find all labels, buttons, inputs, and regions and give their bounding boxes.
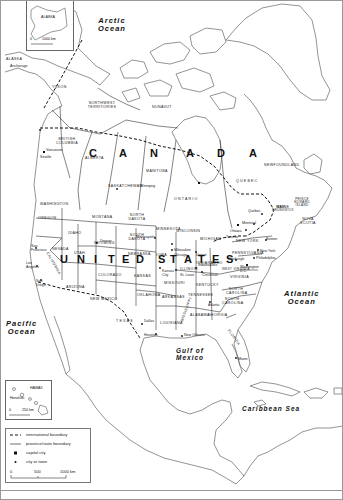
city-vancouver: Vancouver bbox=[46, 149, 63, 153]
city-chicago: Chicago bbox=[174, 254, 187, 258]
city-indianapolis: Indianapolis bbox=[198, 264, 217, 268]
hawaii-inset: HAWAII Honolulu 0 250 km bbox=[5, 380, 52, 420]
city-washington-dc: Washington D.C. bbox=[240, 266, 262, 273]
state-arkansas: ARKANSAS bbox=[162, 296, 185, 300]
city-seattle: Seattle bbox=[40, 156, 51, 160]
state-michigan: MICHIGAN bbox=[200, 238, 221, 242]
state-alabama: ALABAMA bbox=[190, 314, 210, 318]
state-arizona: ARIZONA bbox=[66, 286, 85, 290]
state-louisiana: LOUISIANA bbox=[160, 322, 183, 326]
alaska-inset-label: ALASKA bbox=[41, 16, 55, 20]
city-cincinnati: Cincinnati bbox=[202, 274, 218, 278]
map-legend: international boundary province/state bo… bbox=[5, 428, 91, 483]
city-toronto: Toronto bbox=[226, 236, 238, 240]
region-prince-edward-island: PRINCE EDWARD ISLAND bbox=[290, 198, 314, 207]
atlantic-ocean-label: Atlantic Ocean bbox=[284, 290, 320, 305]
city-ottawa: Ottawa bbox=[230, 230, 241, 234]
state-nebraska: NEBRASKA bbox=[128, 253, 151, 257]
north-america-map: ALASKA 0 1000 km Arctic Ocean Pacific Oc… bbox=[0, 0, 343, 500]
state-idaho: IDAHO bbox=[68, 232, 81, 236]
state-maine: MAINE bbox=[276, 206, 289, 210]
city-anchorage: Anchorage bbox=[10, 65, 27, 69]
city-detroit: Detroit bbox=[196, 254, 207, 258]
city-san-diego: San Diego bbox=[36, 280, 48, 287]
state-texas: TEXAS bbox=[116, 320, 134, 324]
hawaii-scale-end: 250 km bbox=[22, 409, 34, 413]
city-new-orleans: New Orleans bbox=[184, 334, 205, 338]
city-miami: Miami bbox=[238, 358, 248, 362]
state-washington: WASHINGTON bbox=[40, 203, 69, 207]
state-utah: UTAH bbox=[74, 252, 85, 256]
solid-line-icon bbox=[10, 442, 21, 446]
city-san-francisco: San Francisco bbox=[31, 245, 47, 252]
region-northwest-territories: NORTHWEST TERRITORIES bbox=[84, 102, 120, 109]
dot-icon bbox=[10, 460, 21, 464]
city-houston: Houston bbox=[144, 334, 157, 338]
legend-city-or-town: city or town bbox=[10, 459, 47, 464]
city-minneapolis: Minneapolis bbox=[136, 236, 155, 240]
state-north-dakota: NORTH DAKOTA bbox=[128, 214, 146, 221]
city-winnipeg: Winnipeg bbox=[140, 185, 155, 189]
city-atlanta: Atlanta bbox=[208, 304, 219, 308]
legend-capital-city: capital city bbox=[10, 450, 46, 455]
city-denver: Denver bbox=[100, 240, 112, 244]
region-alberta: ALBERTA bbox=[85, 157, 104, 161]
region-british-columbia: BRITISH COLUMBIA bbox=[56, 138, 78, 145]
alaska-scale-zero: 0 bbox=[30, 38, 32, 42]
state-new-york: NEW YORK bbox=[236, 240, 259, 244]
region-ontario: ONTARIO bbox=[174, 198, 199, 202]
arctic-ocean-label: Arctic Ocean bbox=[98, 17, 126, 32]
city-new-york: New York bbox=[260, 250, 275, 254]
alaska-inset: ALASKA 0 1000 km bbox=[26, 0, 74, 51]
state-alaska: ALASKA bbox=[6, 58, 22, 62]
alaska-scale-end: 1000 km bbox=[42, 38, 56, 42]
city-dallas: Dallas bbox=[144, 320, 154, 324]
state-kansas: KANSAS bbox=[134, 275, 151, 279]
state-colorado: COLORADO bbox=[98, 274, 122, 278]
legend-international-boundary: international boundary bbox=[10, 432, 67, 437]
city-boston: Boston bbox=[266, 238, 277, 242]
bottom-divider bbox=[0, 490, 343, 491]
state-virginia: VIRGINIA bbox=[230, 276, 249, 280]
gulf-of-mexico-label: Gulf of Mexico bbox=[176, 348, 204, 361]
hawaii-scale-zero: 0 bbox=[9, 409, 11, 413]
region-yukon: YUKON bbox=[52, 86, 67, 90]
region-manitoba: MANITOBA bbox=[146, 170, 168, 174]
state-oregon: OREGON bbox=[38, 217, 56, 221]
square-icon bbox=[10, 451, 21, 455]
dashed-line-icon bbox=[10, 433, 21, 437]
hawaii-inset-label: HAWAII bbox=[30, 387, 43, 391]
region-nova-scotia: NOVA SCOTIA bbox=[300, 218, 316, 225]
region-quebec: QUEBEC bbox=[236, 180, 258, 184]
legend-province-state-boundary: province/state boundary bbox=[10, 441, 71, 446]
caribbean-sea-label: Caribbean Sea bbox=[242, 406, 300, 413]
city-pittsburgh: Pittsburgh bbox=[228, 258, 244, 262]
city-los-angeles: Los Angeles bbox=[26, 262, 40, 269]
state-north-carolina: NORTH CAROLINA bbox=[226, 288, 246, 295]
city-quebec: Quebec bbox=[248, 210, 261, 214]
city-philadelphia: Philadelphia bbox=[256, 257, 276, 261]
region-newfoundland: NEWFOUNDLAND bbox=[264, 164, 300, 168]
state-montana: MONTANA bbox=[92, 216, 113, 220]
state-illinois: ILLINOIS bbox=[180, 268, 198, 272]
state-wisconsin: WISCONSIN bbox=[176, 230, 200, 234]
state-oklahoma: OKLAHOMA bbox=[137, 294, 161, 298]
pacific-ocean-label: Pacific Ocean bbox=[6, 320, 37, 335]
city-montreal: Montreal bbox=[242, 222, 256, 226]
alaska-inset-outline bbox=[27, 0, 73, 50]
state-new-mexico: NEW MEXICO bbox=[90, 298, 118, 302]
state-kentucky: KENTUCKY bbox=[196, 284, 219, 288]
region-nunavut: NUNAVUT bbox=[152, 106, 172, 110]
city-honolulu: Honolulu bbox=[10, 397, 24, 401]
state-south-carolina: SOUTH CAROLINA bbox=[222, 298, 242, 305]
legend-scale-bar: 0 500 1000 km bbox=[10, 469, 80, 480]
region-saskatchewan: SASKATCHEWAN bbox=[108, 185, 143, 189]
city-st-louis: St. Louis bbox=[180, 274, 194, 278]
state-georgia: GEORGIA bbox=[208, 314, 228, 318]
state-missouri: MISSOURI bbox=[164, 282, 185, 286]
city-kansas-city: Kansas City bbox=[162, 270, 176, 277]
state-nevada: NEVADA bbox=[52, 248, 69, 252]
state-iowa: IOWA bbox=[156, 254, 167, 258]
